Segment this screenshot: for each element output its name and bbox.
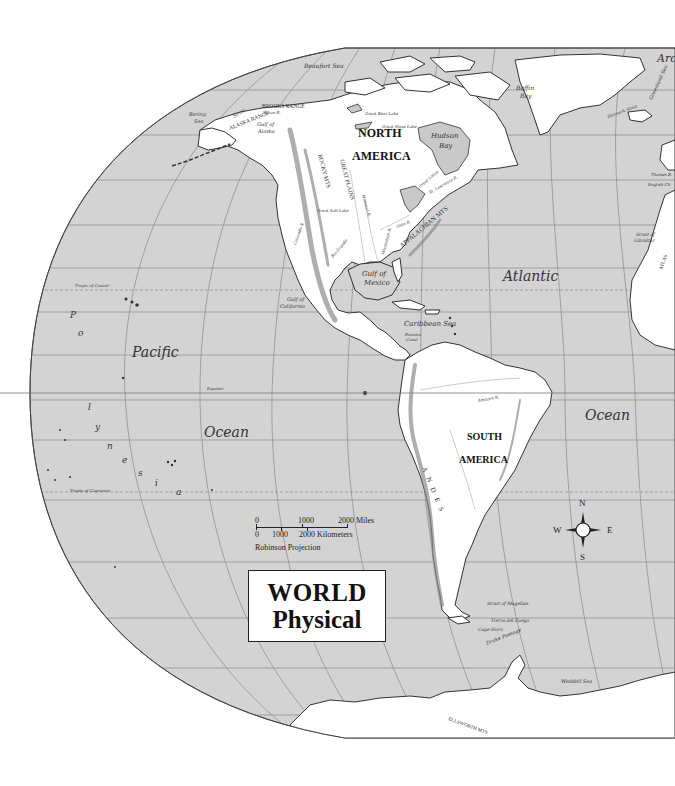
label-brooks-range: BROOKS RANGE xyxy=(262,103,305,109)
label-gulf-alaska-2: Alaska xyxy=(257,128,275,134)
label-polynesia-l: l xyxy=(88,402,91,412)
label-gulf-california-2: California xyxy=(280,303,305,310)
label-great-slave-lake: Great Slave Lake xyxy=(382,124,418,129)
projection-label: Robinson Projection xyxy=(255,543,321,552)
label-pacific: Pacific xyxy=(131,344,179,360)
scale-tick xyxy=(347,524,348,528)
map-subtitle: Physical xyxy=(273,606,362,633)
label-bering-1: Bering xyxy=(188,111,206,118)
label-pacific-ocean: Ocean xyxy=(204,424,249,440)
label-yukon: Yukon R. xyxy=(263,110,281,115)
label-polynesia-p: P xyxy=(69,310,77,320)
world-physical-map: NORTH AMERICA SOUTH AMERICA Pacific Ocea… xyxy=(0,0,675,786)
label-gibraltar-1: Strait of xyxy=(636,232,656,237)
label-equator: Equator xyxy=(206,386,224,391)
label-hudson-2: Bay xyxy=(438,142,453,150)
label-tierra-del-fuego: Tierra del Fuego xyxy=(491,618,529,623)
label-baffin-1: Baffin xyxy=(515,84,534,92)
label-polynesia-i: i xyxy=(155,478,158,488)
compass-north: N xyxy=(579,498,586,508)
label-gibraltar-2: Gibraltar xyxy=(634,238,656,243)
map-title: WORLD xyxy=(267,579,367,606)
compass-icon xyxy=(563,510,603,550)
scale-bar: 0 1000 2000 Miles 0 1000 2000 Kilometers… xyxy=(255,516,385,556)
compass-west: W xyxy=(553,525,562,535)
label-tropic-capricorn: Tropic of Capricorn xyxy=(70,488,110,493)
label-panama-2: Canal xyxy=(406,337,418,342)
label-gulf-alaska-1: Gulf of xyxy=(257,121,275,128)
label-polynesia-e: e xyxy=(122,455,127,465)
label-gulf-mexico-1: Gulf of xyxy=(362,270,387,278)
label-great-salt-lake: Great Salt Lake xyxy=(317,208,349,213)
label-gulf-mexico-2: Mexico xyxy=(363,279,390,287)
scale-km-1000: 1000 xyxy=(272,530,288,539)
label-south-america-2: AMERICA xyxy=(459,454,509,465)
compass-south: S xyxy=(580,552,585,562)
label-south-america-1: SOUTH xyxy=(467,431,502,442)
label-bering-2: Sea xyxy=(194,118,203,124)
label-atlantic-ocean: Ocean xyxy=(585,407,630,423)
label-polynesia-a: a xyxy=(176,487,181,497)
label-baffin-2: Bay xyxy=(519,92,532,100)
label-beaufort-sea: Beaufort Sea xyxy=(303,62,344,70)
label-tropic-cancer: Tropic of Cancer xyxy=(75,283,110,288)
label-arctic-partial: Arc xyxy=(656,52,675,65)
label-great-bear-lake: Great Bear Lake xyxy=(365,111,399,116)
label-cape-horn: Cape Horn xyxy=(478,627,503,632)
label-english-channel: English Ch. xyxy=(647,182,671,187)
map-title-box: WORLD Physical xyxy=(248,570,386,642)
label-polynesia-s: s xyxy=(138,468,143,478)
label-north-america-2: AMERICA xyxy=(352,149,411,163)
label-caribbean-sea: Caribbean Sea xyxy=(404,320,456,328)
compass-east: E xyxy=(607,525,613,535)
label-weddell-sea: Weddell Sea xyxy=(561,678,592,684)
label-strait-magellan: Strait of Magellan xyxy=(487,601,529,606)
label-atlantic: Atlantic xyxy=(501,268,558,284)
label-hudson-1: Hudson xyxy=(430,132,459,140)
label-polynesia-n: n xyxy=(107,441,113,451)
label-gulf-california-1: Gulf of xyxy=(287,296,305,303)
scale-km-0: 0 xyxy=(255,530,259,539)
scale-tick xyxy=(302,524,303,528)
scale-miles-2000: 2000 Miles xyxy=(338,516,374,525)
scale-km-2000: 2000 Kilometers xyxy=(299,530,353,539)
label-polynesia-o: o xyxy=(78,328,84,338)
label-thames: Thames R. xyxy=(651,172,672,177)
compass-rose: N W E S xyxy=(553,498,613,562)
label-polynesia-y: y xyxy=(94,422,101,432)
scale-miles-1000: 1000 xyxy=(298,516,314,525)
